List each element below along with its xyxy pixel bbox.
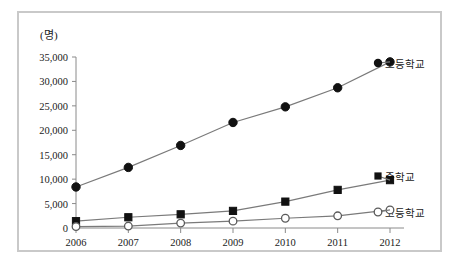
data-point-marker bbox=[333, 84, 341, 92]
legend-marker-1 bbox=[374, 59, 382, 67]
legend-marker-2 bbox=[374, 172, 381, 179]
data-point-marker bbox=[125, 214, 132, 221]
data-point-marker bbox=[177, 211, 184, 218]
data-point-marker bbox=[72, 183, 80, 191]
data-point-marker bbox=[177, 219, 185, 227]
data-point-marker bbox=[72, 223, 80, 231]
data-point-marker bbox=[229, 118, 237, 126]
data-point-marker bbox=[282, 214, 290, 222]
data-point-marker bbox=[229, 207, 236, 214]
data-point-marker bbox=[281, 103, 289, 111]
data-point-marker bbox=[229, 217, 237, 225]
data-point-marker bbox=[334, 212, 342, 220]
line-chart-plot bbox=[0, 0, 463, 276]
legend-marker-3 bbox=[374, 208, 382, 216]
data-point-marker bbox=[176, 141, 184, 149]
data-point-marker bbox=[125, 222, 133, 230]
data-point-marker bbox=[282, 198, 289, 205]
data-point-marker bbox=[334, 186, 341, 193]
data-point-marker bbox=[124, 163, 132, 171]
